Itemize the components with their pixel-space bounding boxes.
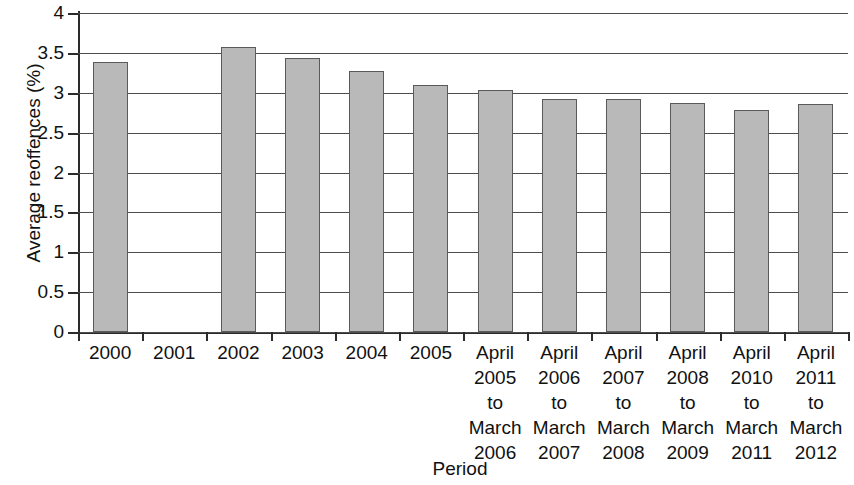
y-tick-label: 2	[10, 162, 64, 184]
y-tick-mark	[68, 13, 78, 15]
x-tick-label: 2002	[203, 340, 273, 365]
y-tick-mark	[68, 292, 78, 294]
plot-area	[78, 13, 848, 332]
y-tick-mark	[68, 133, 78, 135]
gridline	[78, 173, 848, 174]
y-tick-label: 1.5	[10, 201, 64, 223]
x-tick-label: 2001	[139, 340, 209, 365]
y-tick-label: 0.5	[10, 281, 64, 303]
gridline	[78, 212, 848, 213]
x-tick-label: April 2011 to March 2012	[781, 340, 851, 465]
y-tick-mark	[68, 173, 78, 175]
gridline	[78, 252, 848, 253]
bar	[285, 58, 320, 332]
x-tick-label: April 2010 to March 2011	[717, 340, 787, 465]
y-tick-mark	[68, 93, 78, 95]
bar	[221, 47, 256, 333]
y-tick-label: 3.5	[10, 42, 64, 64]
x-tick-label: 2003	[268, 340, 338, 365]
x-tick-label: 2000	[75, 340, 145, 365]
y-tick-label: 3	[10, 82, 64, 104]
bar	[670, 103, 705, 332]
x-axis-title: Period	[0, 458, 854, 480]
y-tick-mark	[68, 53, 78, 55]
bar	[478, 90, 513, 332]
y-tick-mark	[68, 332, 78, 334]
bar	[542, 99, 577, 332]
gridline	[78, 93, 848, 94]
x-tick-label: April 2006 to March 2007	[524, 340, 594, 465]
bar	[606, 99, 641, 332]
gridline	[78, 133, 848, 134]
x-tick-label: 2004	[332, 340, 402, 365]
y-tick-label: 2.5	[10, 122, 64, 144]
bar	[349, 71, 384, 332]
y-tick-label: 0	[10, 321, 64, 343]
y-tick-label: 4	[10, 2, 64, 24]
x-tick-label: April 2008 to March 2009	[653, 340, 723, 465]
x-tick-label: April 2005 to March 2006	[460, 340, 530, 465]
bar	[734, 110, 769, 333]
y-tick-mark	[68, 212, 78, 214]
y-tick-label: 1	[10, 241, 64, 263]
bar	[798, 104, 833, 332]
gridline	[78, 13, 848, 14]
gridline	[78, 292, 848, 293]
x-tick-label: 2005	[396, 340, 466, 365]
gridline	[78, 53, 848, 54]
x-tick-label: April 2007 to March 2008	[588, 340, 658, 465]
bar	[413, 85, 448, 332]
bar	[93, 62, 128, 332]
y-tick-mark	[68, 252, 78, 254]
